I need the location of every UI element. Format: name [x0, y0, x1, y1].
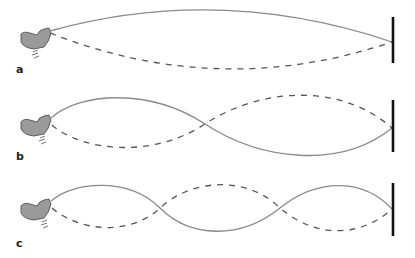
hand-icon	[21, 115, 51, 144]
hand-icon	[21, 199, 51, 228]
wave-solid-a	[50, 10, 392, 42]
panel-c: c	[16, 183, 393, 250]
wave-solid-b	[51, 98, 392, 156]
panel-label-c: c	[16, 237, 23, 250]
panel-label-b: b	[16, 150, 24, 163]
panel-a: a	[16, 10, 393, 76]
wave-dashed-b	[52, 95, 392, 147]
panel-b: b	[16, 95, 393, 163]
wave-solid-c	[51, 185, 392, 231]
wave-dashed-c	[52, 185, 392, 231]
panel-label-a: a	[16, 63, 23, 76]
wave-dashed-a	[50, 33, 392, 69]
hand-icon	[21, 28, 51, 58]
standing-waves-diagram: a b c	[0, 0, 415, 258]
